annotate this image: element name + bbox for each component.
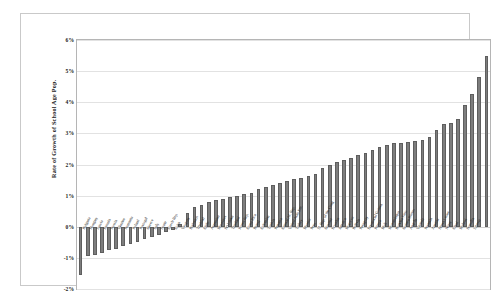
y-tick-label: 5% — [66, 68, 74, 74]
bar — [114, 227, 118, 249]
y-tick-label: -2% — [64, 286, 74, 292]
bar — [200, 205, 204, 227]
plot-area: 6%5%4%3%2%1%0%-1%-2% — [76, 39, 491, 290]
bar — [335, 162, 339, 227]
bar — [86, 227, 90, 257]
bar — [364, 153, 368, 227]
bar — [385, 145, 389, 227]
y-tick-label: 2% — [66, 162, 74, 168]
y-tick-label: 3% — [66, 130, 74, 136]
bar — [328, 165, 332, 227]
bar — [285, 181, 289, 227]
bar — [428, 137, 432, 227]
bar — [435, 130, 439, 226]
bar — [271, 185, 275, 227]
bar — [207, 202, 211, 226]
y-tick-label: 4% — [66, 99, 74, 105]
bar — [214, 200, 218, 226]
bar — [449, 123, 453, 226]
gridline — [77, 289, 490, 290]
bar — [470, 94, 474, 226]
bar — [278, 183, 282, 227]
bar — [257, 189, 261, 227]
chart-outer-frame: Rate of Growth of School Age Pop. 6%5%4%… — [20, 13, 470, 286]
bar — [129, 227, 133, 244]
bar — [178, 224, 182, 227]
bar — [235, 196, 239, 227]
bar — [307, 176, 311, 226]
bar — [349, 158, 353, 227]
bar — [442, 124, 446, 227]
bar — [314, 174, 318, 227]
bar — [456, 119, 460, 226]
bar — [406, 142, 410, 227]
bar — [221, 199, 225, 227]
y-tick-label: 1% — [66, 193, 74, 199]
bar — [264, 187, 268, 227]
bar — [463, 105, 467, 226]
bar — [242, 194, 246, 227]
bar — [250, 193, 254, 227]
bar — [228, 197, 232, 227]
bar — [121, 227, 125, 246]
bar — [193, 207, 197, 226]
y-tick-label: 0% — [66, 224, 74, 230]
bar — [342, 160, 346, 227]
bar — [93, 227, 97, 255]
bar — [477, 77, 481, 226]
bar — [378, 147, 382, 226]
bar — [79, 227, 83, 275]
y-axis-title: Rate of Growth of School Age Pop. — [47, 39, 61, 219]
bar — [371, 150, 375, 226]
y-tick-label: -1% — [64, 255, 74, 261]
bar — [100, 227, 104, 253]
bar — [421, 140, 425, 227]
bar — [413, 141, 417, 227]
bar — [392, 143, 396, 226]
bar — [399, 143, 403, 227]
y-tick-label: 6% — [66, 37, 74, 43]
bar — [150, 227, 154, 237]
bar-series — [77, 40, 490, 289]
bar — [143, 227, 147, 239]
bar — [136, 227, 140, 242]
bar — [186, 213, 190, 227]
bar — [107, 227, 111, 250]
bar — [321, 168, 325, 227]
bar — [356, 155, 360, 227]
bar — [299, 178, 303, 227]
bar — [292, 179, 296, 227]
bar — [171, 227, 175, 230]
bar — [157, 227, 161, 235]
bar — [164, 227, 168, 233]
bar — [485, 56, 489, 227]
